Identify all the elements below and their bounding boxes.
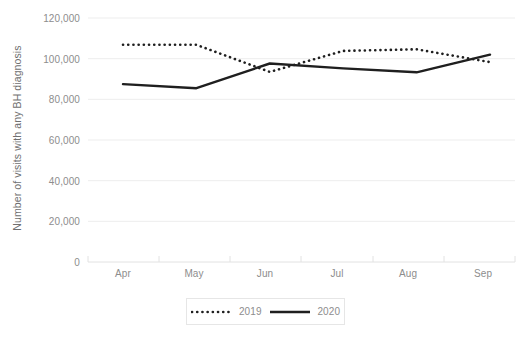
solid-line-swatch-icon (269, 307, 311, 317)
legend-item-2020[interactable]: 2020 (269, 306, 340, 317)
chart-legend: 2019 2020 (186, 298, 345, 325)
legend-label-2019: 2019 (239, 306, 262, 317)
dotted-line-swatch-icon (191, 307, 233, 317)
legend-item-2019[interactable]: 2019 (191, 306, 262, 317)
x-axis-ticks (88, 256, 515, 262)
x-tick-label-sep: Sep (453, 268, 513, 279)
x-tick-label-apr: Apr (93, 268, 153, 279)
x-tick-label-jun: Jun (235, 268, 295, 279)
series-2020-line (123, 55, 490, 89)
gridlines (88, 18, 515, 221)
line-chart: Number of visits with any BH diagnosis 1… (0, 0, 531, 350)
x-tick-label-aug: Aug (378, 268, 438, 279)
x-tick-label-may: May (164, 268, 224, 279)
x-tick-label-jul: Jul (307, 268, 367, 279)
legend-label-2020: 2020 (317, 306, 340, 317)
